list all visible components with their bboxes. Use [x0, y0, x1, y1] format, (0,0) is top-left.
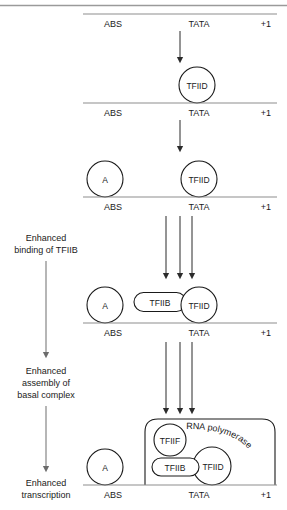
dna-label-tata: TATA: [189, 490, 210, 500]
side-caption-line: basal complex: [17, 390, 75, 400]
dna-label-abs: ABS: [104, 490, 122, 500]
dna-label-abs: ABS: [104, 19, 122, 29]
factor-a-label: A: [102, 463, 108, 473]
dna-label-start: +1: [261, 202, 271, 212]
side-caption-line: Enhanced: [26, 366, 67, 376]
side-caption-line: binding of TFIIB: [14, 245, 77, 255]
side-caption-line: assembly of: [22, 378, 71, 388]
transcription-assembly-diagram: ABS TATA +1 TFIID ABS TATA +1 A TFIID AB…: [0, 0, 287, 510]
factor-tfiib-label: TFIIB: [165, 463, 186, 473]
dna-label-tata: TATA: [189, 202, 210, 212]
factor-tfiib-label: TFIIB: [150, 298, 171, 308]
factor-a-label: A: [102, 301, 108, 311]
dna-label-abs: ABS: [104, 202, 122, 212]
dna-label-tata: TATA: [189, 108, 210, 118]
factor-tfiif-label: TFIIF: [160, 436, 180, 446]
dna-label-start: +1: [261, 328, 271, 338]
side-caption-line: transcription: [21, 490, 70, 500]
factor-a-label: A: [102, 175, 108, 185]
factor-tfiid-label: TFIID: [186, 81, 207, 91]
factor-tfiid-label: TFIID: [188, 175, 209, 185]
dna-label-start: +1: [261, 19, 271, 29]
dna-label-tata: TATA: [189, 328, 210, 338]
dna-label-abs: ABS: [104, 108, 122, 118]
dna-label-start: +1: [261, 490, 271, 500]
dna-label-start: +1: [261, 108, 271, 118]
side-caption-line: Enhanced: [26, 233, 67, 243]
dna-label-tata: TATA: [189, 19, 210, 29]
side-caption-line: Enhanced: [26, 478, 67, 488]
dna-label-abs: ABS: [104, 328, 122, 338]
factor-tfiid-label: TFIID: [202, 462, 223, 472]
factor-tfiid-label: TFIID: [188, 301, 209, 311]
